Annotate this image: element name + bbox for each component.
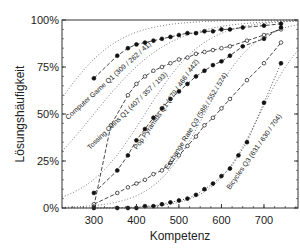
data-point [262, 61, 266, 65]
data-point [92, 76, 96, 80]
data-point [211, 29, 215, 33]
x-axis: 300400500600700 [73, 204, 296, 226]
data-point [228, 97, 232, 101]
data-point [135, 182, 139, 186]
data-point [228, 167, 232, 171]
model-curve [62, 25, 298, 208]
y-tick-label: 25% [37, 155, 59, 167]
data-point [262, 33, 266, 37]
y-axis-title: Lösungshäufigkeit [13, 65, 27, 162]
x-tick-label: 400 [127, 214, 145, 226]
data-point [211, 116, 215, 120]
data-point [194, 52, 198, 56]
data-point [211, 48, 215, 52]
data-point [169, 35, 173, 39]
data-point [135, 43, 139, 47]
data-point [279, 22, 283, 26]
data-point [245, 78, 249, 82]
data-point [262, 37, 266, 41]
data-point [135, 82, 139, 86]
data-point [220, 28, 224, 32]
data-point [152, 172, 156, 176]
data-point [160, 202, 164, 206]
data-point [211, 182, 215, 186]
plot-frame [62, 20, 298, 208]
data-point [152, 204, 156, 208]
x-axis-title: Kompetenz [150, 229, 211, 243]
data-point [126, 153, 130, 157]
data-point [186, 56, 190, 60]
data-point [126, 93, 130, 97]
data-point [203, 187, 207, 191]
x-tick-label: 600 [212, 214, 230, 226]
data-point [211, 63, 215, 67]
data-point [115, 191, 119, 195]
data-point [237, 153, 241, 157]
data-point [160, 65, 164, 69]
data-point [177, 33, 181, 37]
data-point [220, 59, 224, 63]
data-point [186, 31, 190, 35]
curve-label: Exchange Rate Q3 (586 / 552 / 574) [163, 71, 229, 171]
data-point [126, 186, 130, 190]
x-tick-label: 500 [170, 214, 188, 226]
data-point [186, 197, 190, 201]
data-point [115, 54, 119, 58]
data-point [152, 69, 156, 73]
model-curve [62, 51, 298, 208]
data-point [262, 101, 266, 105]
data-point [279, 26, 283, 30]
plot-curves [62, 20, 298, 208]
data-point [241, 26, 245, 30]
x-tick-label: 300 [85, 214, 103, 226]
data-point [279, 41, 283, 45]
data-point [169, 61, 173, 65]
data-point [177, 58, 181, 62]
y-tick-label: 50% [37, 108, 59, 120]
data-point [245, 39, 249, 43]
data-point [186, 82, 190, 86]
chart: Computer Game Q1 (309 / 262 / 41)Tossing… [0, 0, 300, 248]
y-tick-label: 100% [31, 14, 59, 26]
data-point [262, 24, 266, 28]
data-point [228, 45, 232, 49]
data-point [203, 69, 207, 73]
curve-label: Bicycles Q3 (631 / 630 / 704) [225, 113, 283, 192]
data-point [92, 191, 96, 195]
data-point [160, 169, 164, 173]
data-point [228, 54, 232, 58]
data-point [194, 31, 198, 35]
data-point [152, 39, 156, 43]
data-point [143, 75, 147, 79]
data-point [169, 200, 173, 204]
data-point [203, 29, 207, 33]
data-point [126, 46, 130, 50]
data-point [241, 44, 245, 48]
data-point [186, 144, 190, 148]
data-point [115, 169, 119, 173]
data-point [143, 204, 147, 208]
data-point [160, 37, 164, 41]
data-point [220, 46, 224, 50]
data-point [279, 61, 283, 65]
data-point [220, 107, 224, 111]
data-point [245, 140, 249, 144]
y-tick-label: 75% [37, 61, 59, 73]
y-tick-label: 0% [43, 202, 59, 214]
data-point [194, 135, 198, 139]
data-point [203, 123, 207, 127]
data-point [228, 28, 232, 32]
data-point [143, 178, 147, 182]
curve-label: Pop Pyramids Q1 (479 / 466 / 442) [132, 58, 201, 151]
data-point [194, 75, 198, 79]
data-point [203, 50, 207, 54]
curve-labels: Computer Game Q1 (309 / 262 / 41)Tossing… [64, 40, 283, 191]
x-tick-label: 700 [255, 214, 273, 226]
data-point [220, 174, 224, 178]
data-point [194, 193, 198, 197]
data-point [177, 199, 181, 203]
